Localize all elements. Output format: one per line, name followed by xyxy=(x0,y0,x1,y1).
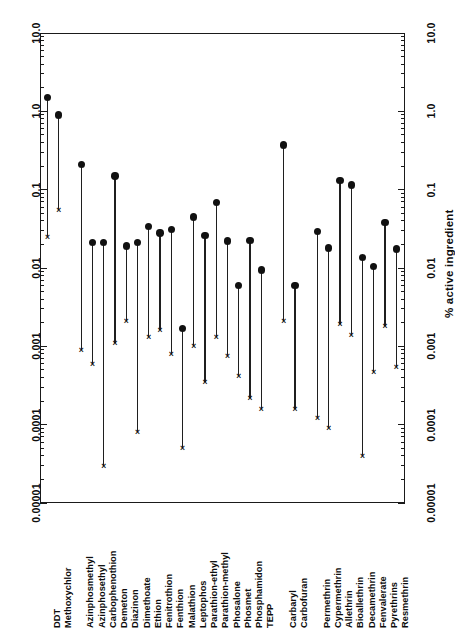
axis-tick-minor xyxy=(40,387,44,388)
range-stem xyxy=(148,226,149,337)
axis-tick-minor xyxy=(401,197,405,198)
axis-tick-major xyxy=(398,189,405,190)
axis-tick-minor xyxy=(401,201,405,202)
axis-tick-major xyxy=(398,111,405,112)
data-point-low: × xyxy=(191,342,196,351)
data-point-high xyxy=(213,199,220,206)
axis-tick-minor xyxy=(401,349,405,350)
axis-tick-major xyxy=(398,33,405,34)
axis-tick-minor xyxy=(401,432,405,433)
category-label: Bioallethrin xyxy=(355,577,365,628)
axis-tick-minor xyxy=(40,299,44,300)
data-point-low: × xyxy=(259,404,264,413)
data-point-low: × xyxy=(315,414,320,423)
range-stem xyxy=(283,145,284,321)
y-tick-label-right: 0.00001 xyxy=(425,483,437,522)
axis-tick-major xyxy=(398,268,405,269)
range-stem xyxy=(171,230,172,354)
axis-tick-minor xyxy=(401,230,405,231)
data-point-low: × xyxy=(349,331,354,340)
axis-tick-minor xyxy=(40,285,44,286)
axis-tick-minor xyxy=(40,401,44,402)
axis-tick-minor xyxy=(40,128,44,129)
range-stem xyxy=(58,115,59,210)
axis-tick-minor xyxy=(40,363,44,364)
axis-tick-minor xyxy=(40,369,44,370)
axis-tick-minor xyxy=(40,201,44,202)
data-point-low: × xyxy=(90,359,95,368)
category-label: Allethrin xyxy=(344,590,354,628)
axis-tick-minor xyxy=(401,377,405,378)
data-point-low: × xyxy=(360,452,365,461)
data-point-low: × xyxy=(45,233,50,242)
axis-tick-minor xyxy=(401,220,405,221)
axis-tick-major xyxy=(398,503,405,504)
category-label: Diazinon xyxy=(130,589,140,628)
category-label: Phosphamidon xyxy=(254,561,264,628)
axis-tick-minor xyxy=(40,465,44,466)
axis-tick-minor xyxy=(401,363,405,364)
category-label: Fenitrothion xyxy=(164,574,174,628)
axis-tick-minor xyxy=(40,142,44,143)
axis-tick-minor xyxy=(401,401,405,402)
axis-tick-minor xyxy=(401,285,405,286)
data-point-low: × xyxy=(383,322,388,331)
axis-tick-minor xyxy=(401,64,405,65)
axis-tick-minor xyxy=(40,322,44,323)
axis-tick-minor xyxy=(40,244,44,245)
axis-tick-minor xyxy=(401,244,405,245)
axis-tick-minor xyxy=(40,377,44,378)
y-tick-label-right: 0.001 xyxy=(425,333,437,360)
axis-tick-minor xyxy=(401,123,405,124)
axis-tick-minor xyxy=(401,428,405,429)
y-tick-label-left: 0.01 xyxy=(30,257,42,278)
axis-tick-minor xyxy=(401,291,405,292)
axis-tick-minor xyxy=(401,134,405,135)
axis-tick-minor xyxy=(40,442,44,443)
axis-tick-minor xyxy=(40,207,44,208)
category-label: Phosmet xyxy=(243,589,253,628)
data-point-low: × xyxy=(203,378,208,387)
data-point-low: × xyxy=(236,372,241,381)
category-label: Fenthion xyxy=(175,589,185,628)
category-label: Ethion xyxy=(153,599,163,628)
y-tick-label-left: 0.1 xyxy=(30,182,42,197)
axis-tick-minor xyxy=(40,280,44,281)
data-point-high xyxy=(190,213,197,220)
axis-tick-minor xyxy=(40,45,44,46)
axis-tick-minor xyxy=(401,45,405,46)
axis-tick-minor xyxy=(401,308,405,309)
axis-tick-minor xyxy=(401,114,405,115)
axis-tick-minor xyxy=(401,280,405,281)
axis-tick-minor xyxy=(401,207,405,208)
range-stem xyxy=(339,181,340,325)
axis-tick-minor xyxy=(401,455,405,456)
data-point-high xyxy=(156,229,163,236)
range-stem xyxy=(351,185,352,335)
axis-tick-minor xyxy=(401,213,405,214)
data-point-high xyxy=(393,245,400,252)
data-point-high xyxy=(123,242,130,249)
range-stem xyxy=(137,243,138,432)
category-label: Methoxychlor xyxy=(63,568,73,628)
category-label: Carbaryl xyxy=(288,590,298,628)
axis-tick-minor xyxy=(40,291,44,292)
data-point-high xyxy=(291,282,298,289)
category-label: Carbophenothion xyxy=(108,551,118,628)
category-label: Malathion xyxy=(187,585,197,628)
axis-tick-minor xyxy=(40,479,44,480)
category-label: Parathion-ethyl xyxy=(209,560,219,628)
axis-tick-minor xyxy=(40,220,44,221)
axis-tick-minor xyxy=(401,142,405,143)
axis-tick-minor xyxy=(401,87,405,88)
y-tick-label-right: 1.0 xyxy=(425,104,437,119)
data-point-low: × xyxy=(180,444,185,453)
data-point-high xyxy=(78,161,85,168)
range-stem xyxy=(193,217,194,347)
axis-tick-minor xyxy=(401,275,405,276)
range-stem xyxy=(126,246,127,321)
data-point-low: × xyxy=(146,333,151,342)
axis-tick-minor xyxy=(401,128,405,129)
data-point-low: × xyxy=(79,346,84,355)
